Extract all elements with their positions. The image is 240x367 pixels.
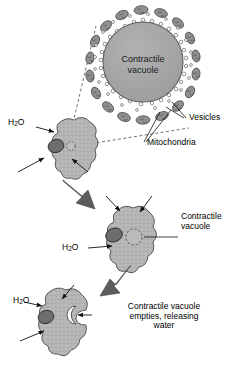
vesicles-label: Vesicles: [189, 113, 220, 123]
stage-1-amoeba: [18, 117, 98, 179]
stage-2-water-label: H2O: [62, 243, 78, 254]
process-arrow-1: [63, 180, 95, 209]
stage-2-vacuole-callout: Contractilevacuole: [181, 212, 222, 231]
stage-2-callout-line2: vacuole: [181, 221, 210, 231]
stage-3-caption-line1: Contractile vacuole: [128, 301, 200, 311]
diagram-canvas: Contractilevacuole Vesicles Mitochondria…: [0, 0, 240, 367]
stage-2-amoeba: [88, 196, 178, 273]
stage-3-caption-line3: water: [154, 320, 175, 330]
stage-3-amoeba: [20, 285, 92, 356]
mitochondria-label: Mitochondria: [147, 138, 196, 148]
magnified-vacuole-label-line1: Contractile: [121, 54, 164, 64]
stage-2-contractile-vacuole: [126, 229, 142, 245]
stage-3-caption: Contractile vacuoleempties, releasingwat…: [96, 302, 232, 331]
stage-3-caption-line2: empties, releasing: [130, 311, 199, 321]
magnified-vacuole-label-line2: vacuole: [127, 65, 158, 75]
stage-1-contractile-vacuole: [67, 142, 76, 151]
stage-2-callout-line1: Contractile: [181, 211, 222, 221]
stage-1-water-label: H2O: [8, 118, 24, 129]
stage-3-water-label: H2O: [13, 296, 29, 307]
magnified-vacuole-label: Contractilevacuole: [113, 54, 173, 75]
